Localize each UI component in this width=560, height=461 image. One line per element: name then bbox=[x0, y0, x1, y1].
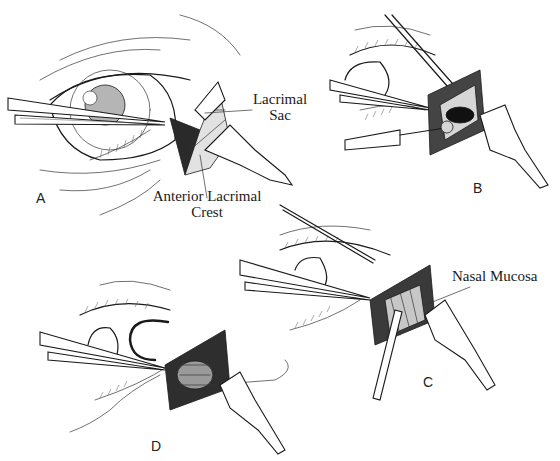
panel-d: D bbox=[30, 260, 330, 460]
panel-letter-a: A bbox=[36, 190, 45, 206]
label-nasal-mucosa: Nasal Mucosa bbox=[452, 268, 552, 284]
panel-d-illustration bbox=[30, 260, 330, 460]
panel-letter-b: B bbox=[473, 180, 482, 196]
panel-b: B bbox=[300, 0, 560, 200]
panel-b-illustration bbox=[300, 0, 560, 200]
panel-letter-c: C bbox=[423, 374, 433, 390]
panel-letter-d: D bbox=[151, 438, 161, 454]
